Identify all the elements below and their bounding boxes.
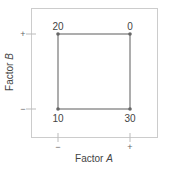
- value-top-right: 0: [127, 21, 133, 32]
- point-bottom-right: [128, 107, 132, 111]
- y-tick-plus-label: +: [20, 29, 25, 39]
- y-axis-label-prefix: Factor: [4, 60, 15, 91]
- x-axis-label-var: A: [105, 153, 113, 164]
- value-top-left: 20: [52, 21, 64, 32]
- x-tick-plus-label: +: [127, 142, 132, 152]
- x-axis-label: Factor A: [75, 153, 113, 164]
- y-axis-label: Factor B: [4, 53, 15, 91]
- x-tick-minus-label: −: [55, 142, 60, 152]
- point-bottom-left: [56, 107, 60, 111]
- value-bottom-left: 10: [52, 113, 64, 124]
- factorial-design-diagram: 20 0 10 30 + − − + Factor A Factor B: [0, 0, 169, 169]
- plot-frame: [32, 9, 158, 138]
- point-top-right: [128, 32, 132, 36]
- x-axis-label-prefix: Factor: [75, 153, 106, 164]
- point-top-left: [56, 32, 60, 36]
- design-square: [58, 34, 130, 109]
- y-tick-minus-label: −: [20, 104, 25, 114]
- y-axis-label-var: B: [4, 53, 15, 60]
- value-bottom-right: 30: [124, 113, 136, 124]
